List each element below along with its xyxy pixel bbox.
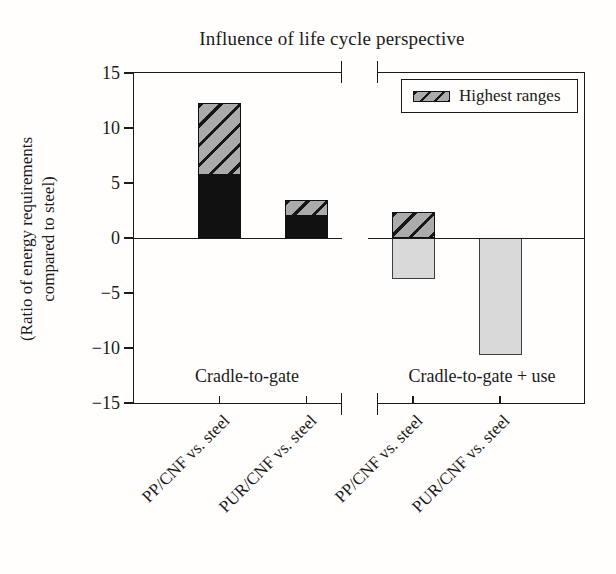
axis-break-tick [341,393,343,415]
x-tick [219,396,221,404]
bar-segment-hatch [392,212,435,238]
bar-segment-black [198,175,241,238]
chart-title: Influence of life cycle perspective [133,28,531,50]
bar-segment-gray [479,238,522,355]
y-axis-label-line1: (Ratio of energy requirements [16,78,38,400]
y-tick [124,402,133,404]
y-tick [124,292,133,294]
bar-segment-gray [392,238,435,279]
y-axis-label: (Ratio of energy requirements compared t… [16,78,62,400]
axis-break-tick [377,61,379,83]
zero-line [133,238,342,239]
chart-figure: Influence of life cycle perspective (Rat… [0,0,616,574]
legend-box: Highest ranges [401,79,578,113]
y-tick [124,237,133,239]
y-tick-label: −10 [62,337,120,359]
y-tick-label: 0 [62,227,120,249]
bar-segment-black [285,216,328,238]
axis-break-tick [341,61,343,83]
panel-label-cradle-to-gate-use: Cradle-to-gate + use [377,366,587,387]
bar-segment-hatch [285,200,328,217]
y-tick-label: 10 [62,117,120,139]
y-tick-label: 5 [62,172,120,194]
x-tick [306,396,308,404]
y-tick [124,127,133,129]
y-tick [124,347,133,349]
x-tick [412,396,414,404]
axis-break-tick [377,393,379,415]
highest-ranges-hatch-swatch-icon [413,91,450,102]
y-tick-label: −5 [62,282,120,304]
panel-label-cradle-to-gate: Cradle-to-gate [142,366,352,387]
y-tick-label: −15 [62,392,120,414]
legend-label: Highest ranges [459,86,561,106]
y-axis-label-line2: compared to steel) [38,78,60,400]
y-tick [124,182,133,184]
zero-line [368,238,585,239]
y-tick-label: 15 [62,62,120,84]
x-tick [499,396,501,404]
bar-segment-hatch [198,103,241,176]
y-tick [124,72,133,74]
